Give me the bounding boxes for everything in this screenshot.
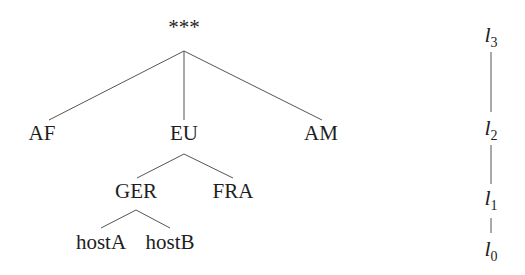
edge-eu-ger [137, 154, 184, 178]
node-root: *** [168, 17, 200, 38]
node-hosta: hostA [76, 232, 126, 253]
edge-root-af [49, 51, 184, 120]
edge-ger-hostb [136, 210, 170, 228]
node-ger: GER [115, 181, 157, 202]
edge-eu-fra [184, 154, 233, 178]
node-eu: EU [170, 123, 198, 144]
node-hostb: hostB [145, 232, 194, 253]
level-l3: l3 [484, 22, 497, 51]
node-am: AM [304, 123, 338, 144]
level-l2: l2 [484, 115, 497, 144]
level-l1: l1 [484, 185, 497, 214]
edge-ger-hosta [101, 210, 136, 228]
node-fra: FRA [213, 181, 254, 202]
edge-root-am [184, 51, 322, 120]
level-l0: l0 [484, 236, 497, 265]
node-af: AF [29, 123, 56, 144]
